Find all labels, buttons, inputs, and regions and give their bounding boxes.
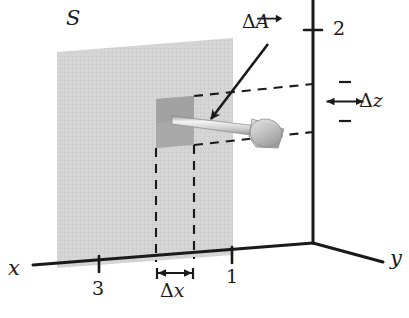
delta-x-delta-symbol: Δ bbox=[160, 279, 174, 301]
surface-S bbox=[57, 38, 233, 268]
delta-x-label: Δx bbox=[160, 281, 184, 300]
x-tick-label-3: 3 bbox=[92, 279, 104, 298]
surface-label-S: S bbox=[66, 8, 80, 29]
delta-z-delta-symbol: Δ bbox=[359, 89, 373, 111]
figure-canvas bbox=[0, 0, 409, 318]
x-axis-label: x bbox=[8, 258, 20, 279]
delta-z-label: Δz bbox=[359, 91, 383, 110]
vector-overbar-icon bbox=[256, 12, 282, 23]
area-vector-label: ΔA bbox=[242, 12, 269, 31]
delta-z-dimension bbox=[327, 82, 364, 121]
z-tick-label-2: 2 bbox=[333, 19, 345, 38]
delta-x-dimension bbox=[157, 268, 193, 279]
area-vector-symbol-wrap: A bbox=[256, 12, 270, 31]
y-axis-label: y bbox=[390, 248, 402, 269]
delta-x-symbol: x bbox=[174, 279, 185, 301]
y-axis bbox=[313, 243, 383, 262]
area-vector-delta-symbol: Δ bbox=[242, 10, 256, 32]
flux-surface-element-figure: S x y 3 1 2 ΔA Δx Δz bbox=[0, 0, 409, 318]
x-tick-label-1: 1 bbox=[226, 267, 238, 286]
delta-z-symbol: z bbox=[373, 89, 383, 111]
